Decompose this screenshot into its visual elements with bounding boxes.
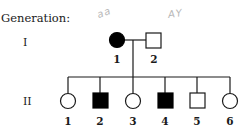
individual-I-2-unaffected-male[interactable] xyxy=(146,33,161,48)
individual-number-II-3: 3 xyxy=(129,116,136,127)
genotype-annotation-I-2: AY xyxy=(167,8,183,20)
individual-II-5-unaffected-male[interactable] xyxy=(190,93,205,108)
generation-label-I: I xyxy=(23,37,27,48)
individual-II-4-affected-male[interactable] xyxy=(158,93,173,108)
individual-number-I-2: 2 xyxy=(150,54,157,65)
individual-number-II-6: 6 xyxy=(226,116,233,127)
pedigree-chart: Generation: I II aa AY 1 2 1 2 3 4 5 6 xyxy=(0,0,250,128)
generation-title: Generation: xyxy=(1,13,70,25)
individual-II-3-unaffected-female[interactable] xyxy=(126,94,141,109)
individual-II-6-unaffected-female[interactable] xyxy=(223,94,238,109)
individual-number-II-1: 1 xyxy=(64,116,71,127)
individual-number-II-2: 2 xyxy=(96,116,103,127)
individual-I-1-affected-female[interactable] xyxy=(110,33,125,48)
individual-number-I-1: 1 xyxy=(113,54,120,65)
individual-number-II-5: 5 xyxy=(193,116,200,127)
individual-II-1-unaffected-female[interactable] xyxy=(61,94,76,109)
individual-II-2-affected-male[interactable] xyxy=(93,93,108,108)
generation-label-II: II xyxy=(23,96,32,107)
individual-number-II-4: 4 xyxy=(161,116,168,127)
